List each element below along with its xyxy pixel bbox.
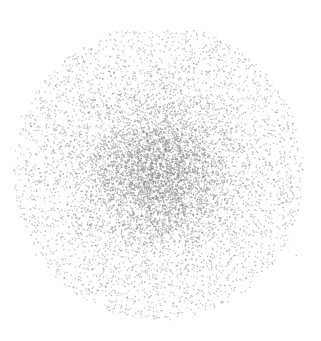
scatter-plot-canvas: [0, 0, 321, 341]
